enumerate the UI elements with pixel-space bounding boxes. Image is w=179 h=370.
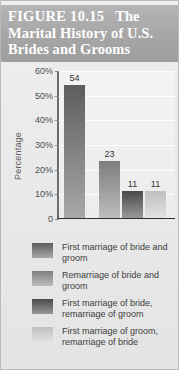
y-axis-tick-label: 50% [19, 91, 53, 101]
figure-title-banner: FIGURE 10.15 The Marital History of U.S.… [1, 5, 179, 62]
chart-legend: First marriage of bride and groomRemarri… [1, 242, 179, 354]
figure-card: FIGURE 10.15 The Marital History of U.S.… [0, 0, 179, 370]
y-axis-tick-mark [55, 219, 59, 220]
y-axis-tick-label: 0 [19, 214, 53, 224]
y-axis-tick-labels: 010%20%30%40%50%60% [19, 63, 53, 218]
bar-value-label: 54 [69, 73, 79, 83]
legend-label: First marriage of bride and groom [62, 242, 179, 264]
y-axis-tick-label: 40% [19, 115, 53, 125]
figure-title-line-1: FIGURE 10.15 The [8, 8, 174, 25]
y-axis-tick-mark [55, 96, 59, 97]
y-axis-tick-mark [55, 145, 59, 146]
bar-value-label: 11 [128, 179, 137, 189]
bar-chart: Percentage 010%20%30%40%50%60% 54231111 [1, 63, 179, 235]
y-axis-tick-mark [55, 170, 59, 171]
y-axis-tick-label: 20% [19, 165, 53, 175]
bar: 23 [99, 161, 120, 218]
y-axis-tick-mark [55, 194, 59, 195]
y-axis-tick-label: 60% [19, 66, 53, 76]
figure-title-line-2: Marital History of U.S. [8, 25, 174, 42]
bar: 54 [64, 85, 85, 218]
plot-area: 54231111 [57, 71, 175, 219]
figure-title-line-3: Brides and Grooms [8, 41, 174, 58]
y-axis-tick-label: 10% [19, 189, 53, 199]
legend-label: First marriage of bride, remarriage of g… [62, 298, 179, 320]
bar-value-label: 11 [151, 179, 160, 189]
bar-value-label: 23 [104, 149, 114, 159]
y-axis-tick-mark [55, 120, 59, 121]
legend-label: First marriage of groom, remarriage of b… [62, 326, 179, 348]
legend-item: First marriage of groom, remarriage of b… [1, 326, 179, 348]
y-axis-tick-mark [55, 71, 59, 72]
bar: 11 [145, 191, 166, 218]
legend-swatch [32, 271, 53, 286]
legend-swatch [32, 299, 53, 314]
figure-title-fragment-1: The [115, 8, 139, 24]
legend-swatch [32, 243, 53, 258]
legend-item: First marriage of bride and groom [1, 242, 179, 264]
figure-number: FIGURE 10.15 [8, 8, 104, 24]
legend-item: Remarriage of bride and groom [1, 270, 179, 292]
bar: 11 [122, 191, 143, 218]
y-axis-tick-label: 30% [19, 140, 53, 150]
legend-swatch [32, 327, 53, 342]
legend-item: First marriage of bride, remarriage of g… [1, 298, 179, 320]
legend-label: Remarriage of bride and groom [62, 270, 179, 292]
